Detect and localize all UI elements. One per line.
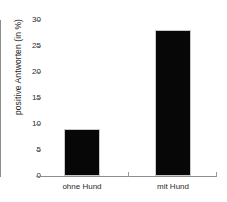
- y-tick-15: 15: [0, 98, 41, 99]
- y-tick-10: 10: [0, 124, 41, 125]
- y-tick-mark: [36, 46, 41, 47]
- y-tick-mark: [36, 72, 41, 73]
- x-axis-line: [41, 176, 217, 177]
- bar-mit-hund: [155, 30, 191, 176]
- y-tick-mark: [36, 124, 41, 125]
- y-tick-mark: [36, 150, 41, 151]
- y-tick-30: 30: [0, 20, 41, 21]
- y-tick-mark: [36, 176, 41, 177]
- y-tick-mark: [36, 20, 41, 21]
- x-tick-label-ohne-hund: ohne Hund: [52, 182, 112, 191]
- x-tick-label-mit-hund: mit Hund: [143, 182, 203, 191]
- y-tick-25: 25: [0, 46, 41, 47]
- y-tick-0: 0: [0, 176, 41, 177]
- y-tick-20: 20: [0, 72, 41, 73]
- bar-chart: positive Antworten (in %) 30 25 20 15 10…: [0, 0, 227, 202]
- x-tick-mid: [128, 172, 129, 177]
- x-tick-end: [216, 172, 217, 177]
- y-tick-mark: [36, 98, 41, 99]
- bar-ohne-hund: [64, 129, 100, 176]
- y-tick-5: 5: [0, 150, 41, 151]
